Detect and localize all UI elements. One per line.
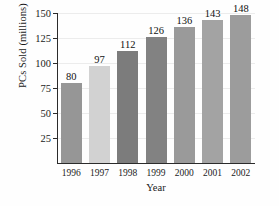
y-tick-mark [53,13,57,14]
y-axis-title: PCs Sold (millions) [17,0,28,116]
bar-rect [61,83,82,163]
x-tick-label: 2000 [170,168,198,178]
bar-value-label: 143 [205,8,221,19]
bar-rect [117,51,138,163]
y-tick-mark [53,38,57,39]
bar: 126 [146,37,167,163]
bar: 80 [61,83,82,163]
x-axis-title: Year [57,182,255,193]
y-tick-mark [53,88,57,89]
bar: 143 [202,20,223,163]
x-axis-line [57,163,255,164]
y-tick-label: 150 [35,8,51,19]
y-tick-label: 125 [35,33,51,44]
bar-value-label: 97 [94,54,105,65]
bar-chart-figure: PCs Sold (millions) 255075100125150 8097… [0,0,279,206]
x-tick-label: 1996 [57,168,85,178]
x-tick-label: 1999 [142,168,170,178]
y-tick-label: 100 [35,58,51,69]
bar: 97 [89,66,110,163]
y-tick-label: 50 [41,108,52,119]
bar: 148 [230,15,251,163]
bar-rect [202,20,223,163]
x-tick-label: 2001 [198,168,226,178]
bar-rect [174,27,195,163]
y-tick-label: 75 [41,83,52,94]
plot-area: 255075100125150 8097112126136143148 1996… [57,13,255,163]
bar-value-label: 148 [233,3,249,14]
bar-rect [89,66,110,163]
y-tick-label: 25 [41,133,52,144]
y-tick-mark [53,138,57,139]
bar: 112 [117,51,138,163]
x-tick-label: 1997 [85,168,113,178]
bar-value-label: 136 [176,15,192,26]
bar-value-label: 126 [148,25,164,36]
gridline [58,13,255,14]
bar-rect [230,15,251,163]
bar-value-label: 80 [66,71,77,82]
x-tick-label: 2002 [227,168,255,178]
bar-value-label: 112 [120,39,135,50]
bar-rect [146,37,167,163]
y-tick-mark [53,63,57,64]
x-tick-label: 1998 [114,168,142,178]
y-tick-mark [53,113,57,114]
bar: 136 [174,27,195,163]
